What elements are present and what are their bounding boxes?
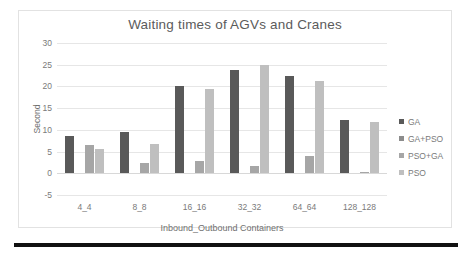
bar-pso-ga-128_128[interactable] bbox=[360, 172, 369, 173]
bar-pso-8_8[interactable] bbox=[150, 144, 159, 173]
y-axis-tick-label: 30 bbox=[43, 38, 52, 48]
bar-group: 16_16 bbox=[167, 43, 222, 195]
y-axis-tick-label: 0 bbox=[47, 168, 52, 178]
y-axis-tick-label: 10 bbox=[43, 125, 52, 135]
y-axis-tick-label: 15 bbox=[43, 103, 52, 113]
y-axis-tick-label: -5 bbox=[44, 190, 52, 200]
x-axis-tick-label: 4_4 bbox=[57, 202, 112, 212]
bar-pso-128_128[interactable] bbox=[370, 122, 379, 173]
x-axis-tick-label: 16_16 bbox=[167, 202, 222, 212]
legend-swatch-icon bbox=[399, 119, 404, 124]
gridline: -5 bbox=[57, 195, 387, 196]
chart-legend: GAGA+PSOPSO+GAPSO bbox=[399, 113, 469, 181]
bar-ga-4_4[interactable] bbox=[65, 136, 74, 173]
chart-card: Waiting times of AGVs and Cranes Second … bbox=[18, 10, 452, 228]
legend-swatch-icon bbox=[399, 136, 404, 141]
bar-pso-ga-8_8[interactable] bbox=[140, 163, 149, 173]
bar-groups: 4_48_816_1632_3264_64128_128 bbox=[57, 43, 387, 195]
x-axis-tick-label: 64_64 bbox=[277, 202, 332, 212]
x-axis-tick-label: 8_8 bbox=[112, 202, 167, 212]
plot-wrapper: Second 302520151050-5 4_48_816_1632_3264… bbox=[57, 43, 387, 195]
bar-ga-8_8[interactable] bbox=[120, 132, 129, 173]
legend-item-pso-ga[interactable]: PSO+GA bbox=[399, 147, 469, 164]
bar-group: 128_128 bbox=[332, 43, 387, 195]
legend-item-ga[interactable]: GA bbox=[399, 113, 469, 130]
bar-group: 64_64 bbox=[277, 43, 332, 195]
bar-pso-32_32[interactable] bbox=[260, 65, 269, 174]
legend-item-pso[interactable]: PSO bbox=[399, 164, 469, 181]
bar-pso-16_16[interactable] bbox=[205, 89, 214, 173]
legend-swatch-icon bbox=[399, 170, 404, 175]
y-axis-title: Second bbox=[32, 105, 42, 134]
bar-group: 4_4 bbox=[57, 43, 112, 195]
legend-label: GA bbox=[408, 117, 420, 127]
chart-title: Waiting times of AGVs and Cranes bbox=[19, 17, 451, 32]
y-axis-tick-label: 20 bbox=[43, 81, 52, 91]
x-axis-title: Inbound_Outbound Containers bbox=[57, 223, 387, 233]
bar-group: 8_8 bbox=[112, 43, 167, 195]
bar-pso-ga-64_64[interactable] bbox=[305, 156, 314, 173]
legend-swatch-icon bbox=[399, 153, 404, 158]
bar-pso-64_64[interactable] bbox=[315, 81, 324, 174]
bar-ga-64_64[interactable] bbox=[285, 76, 294, 173]
bar-pso-ga-4_4[interactable] bbox=[85, 145, 94, 174]
x-axis-tick-label: 128_128 bbox=[332, 202, 387, 212]
bar-pso-ga-16_16[interactable] bbox=[195, 161, 204, 173]
bar-pso-ga-32_32[interactable] bbox=[250, 166, 259, 173]
bar-group: 32_32 bbox=[222, 43, 277, 195]
legend-label: PSO+GA bbox=[408, 151, 443, 161]
y-axis-tick-label: 25 bbox=[43, 60, 52, 70]
bar-ga-16_16[interactable] bbox=[175, 86, 184, 174]
bottom-divider bbox=[14, 243, 458, 247]
bar-ga-32_32[interactable] bbox=[230, 70, 239, 174]
bar-pso-4_4[interactable] bbox=[95, 149, 104, 173]
legend-label: PSO bbox=[408, 168, 426, 178]
bar-ga-128_128[interactable] bbox=[340, 120, 349, 173]
legend-item-ga-pso[interactable]: GA+PSO bbox=[399, 130, 469, 147]
legend-label: GA+PSO bbox=[408, 134, 443, 144]
y-axis-tick-label: 5 bbox=[47, 147, 52, 157]
x-axis-tick-label: 32_32 bbox=[222, 202, 277, 212]
